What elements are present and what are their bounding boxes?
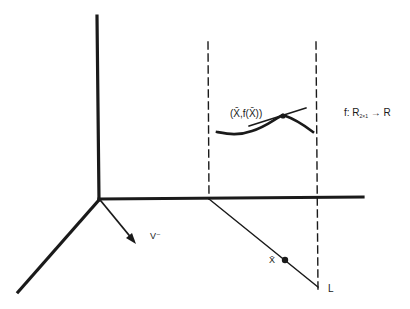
function-target: → R xyxy=(371,107,391,118)
line-L-label: L xyxy=(328,284,334,294)
function-label: f: R2×1 → R xyxy=(344,108,391,119)
diagonal-axis xyxy=(18,200,99,292)
direction-vector-label: V⁻ xyxy=(150,232,161,241)
function-subscript: 2×1 xyxy=(360,113,368,119)
point-x-bar-dot xyxy=(282,257,288,263)
dashed-vertical-right xyxy=(316,42,318,290)
tangent-point-dot xyxy=(280,113,285,118)
dashed-vertical-left xyxy=(208,42,209,199)
horizontal-axis xyxy=(99,197,363,199)
point-x-bar-label: X̄ xyxy=(269,256,275,265)
diagram-canvas xyxy=(0,0,410,309)
vertical-axis xyxy=(97,16,99,200)
function-name: f: R xyxy=(344,107,360,118)
point-label: (X̄,f(X̄)) xyxy=(230,109,262,119)
line-L xyxy=(209,199,318,287)
direction-vector-line xyxy=(101,201,133,240)
direction-vector-arrowhead xyxy=(126,233,136,244)
